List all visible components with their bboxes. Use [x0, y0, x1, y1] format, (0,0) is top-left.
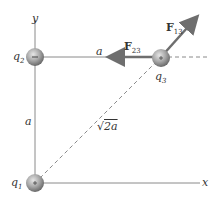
f23-label: F23 [124, 41, 141, 55]
q1-label: q1 [11, 177, 23, 191]
q2-label: q2 [13, 51, 25, 65]
y-axis-label: y [32, 13, 38, 24]
f13-label: F13 [166, 22, 183, 36]
distance-top-label: a [96, 46, 103, 57]
q3-label: q3 [155, 71, 167, 85]
distance-left-label: a [25, 116, 32, 127]
distance-diagonal-label: √2a [97, 121, 118, 132]
diagram-canvas [0, 0, 216, 197]
x-axis-label: x [202, 177, 208, 188]
